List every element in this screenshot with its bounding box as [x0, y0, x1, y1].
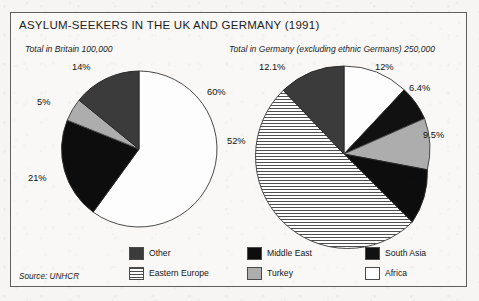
- legend-item-middle-east: Middle East: [247, 243, 365, 263]
- chart-frame: ASYLUM-SEEKERS IN THE UK AND GERMANY (19…: [10, 12, 467, 287]
- legend-label-africa: Africa: [385, 268, 407, 278]
- legend-swatch-turkey-icon: [247, 267, 262, 280]
- legend-label-eastern-europe: Eastern Europe: [149, 268, 209, 278]
- legend-item-other: Other: [129, 243, 247, 263]
- source-note: Source: UNHCR: [19, 272, 79, 281]
- legend-label-south-asia: South Asia: [385, 248, 426, 258]
- legend-item-africa: Africa: [365, 263, 479, 283]
- de-label-africa: 12%: [375, 62, 394, 72]
- de-label-middle-east: 8%: [411, 179, 424, 189]
- de-label-south-asia: 6.4%: [409, 83, 430, 93]
- legend-label-other: Other: [149, 248, 171, 258]
- legend-swatch-south-asia-icon: [365, 247, 380, 260]
- legend-swatch-middle-east-icon: [247, 247, 262, 260]
- uk-label-turkey: 5%: [37, 97, 50, 107]
- legend-item-turkey: Turkey: [247, 263, 365, 283]
- legend-swatch-africa-icon: [365, 267, 380, 280]
- legend-swatch-eastern-europe-icon: [129, 267, 144, 280]
- legend: Other Middle East South Asia Eastern Eur…: [129, 243, 479, 283]
- legend-label-middle-east: Middle East: [267, 248, 312, 258]
- uk-label-other: 14%: [72, 62, 91, 72]
- germany-chart-subtitle: Total in Germany (excluding ethnic Germa…: [229, 44, 435, 54]
- uk-pie-chart: [49, 59, 229, 239]
- de-label-eastern-europe: 52%: [227, 136, 246, 146]
- page-title: ASYLUM-SEEKERS IN THE UK AND GERMANY (19…: [19, 19, 319, 31]
- legend-item-south-asia: South Asia: [365, 243, 479, 263]
- uk-label-africa: 60%: [207, 87, 226, 97]
- uk-chart-subtitle: Total in Britain 100,000: [25, 44, 113, 54]
- legend-label-turkey: Turkey: [267, 268, 293, 278]
- de-label-other: 12.1%: [259, 62, 285, 72]
- uk-label-middle-east: 21%: [28, 173, 47, 183]
- de-label-turkey: 9.5%: [423, 130, 444, 140]
- legend-item-eastern-europe: Eastern Europe: [129, 263, 247, 283]
- legend-swatch-other-icon: [129, 247, 144, 260]
